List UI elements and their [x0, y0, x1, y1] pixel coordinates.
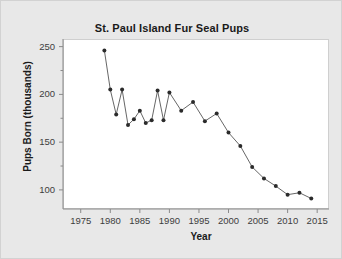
data-point: [150, 118, 154, 122]
data-point: [114, 112, 118, 116]
y-tick-label: 250: [21, 41, 55, 52]
data-point: [156, 89, 160, 93]
x-tick-label: 2015: [300, 215, 334, 226]
data-point: [274, 184, 278, 188]
data-point: [144, 121, 148, 125]
data-point: [227, 131, 231, 135]
y-axis-title: Pups Born (thousands): [22, 37, 33, 197]
data-point: [132, 117, 136, 121]
series-markers: [102, 48, 313, 200]
data-point: [102, 48, 106, 52]
data-point: [286, 193, 290, 197]
data-point: [297, 191, 301, 195]
series-line: [104, 50, 311, 198]
data-point: [238, 144, 242, 148]
data-series-layer: [63, 39, 329, 209]
y-tick-label: 200: [21, 88, 55, 99]
data-point: [309, 196, 313, 200]
data-point: [191, 100, 195, 104]
data-point: [262, 176, 266, 180]
data-point: [203, 119, 207, 123]
data-point: [126, 123, 130, 127]
chart-figure: St. Paul Island Fur Seal Pups Pups Born …: [0, 0, 342, 259]
data-point: [138, 109, 142, 113]
data-point: [250, 165, 254, 169]
data-point: [179, 109, 183, 113]
data-point: [120, 88, 124, 92]
y-tick-label: 100: [21, 184, 55, 195]
chart-title: St. Paul Island Fur Seal Pups: [1, 22, 342, 34]
x-axis-title: Year: [71, 231, 331, 242]
data-point: [215, 111, 219, 115]
data-point: [167, 90, 171, 94]
y-tick-label: 150: [21, 136, 55, 147]
data-point: [108, 88, 112, 92]
data-point: [161, 118, 165, 122]
